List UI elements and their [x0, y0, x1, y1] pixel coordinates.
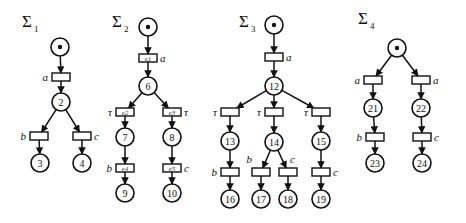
token-icon: [146, 25, 150, 29]
net-sigma4: Σ421222324aabc: [355, 9, 440, 172]
arc: [154, 93, 168, 108]
net-sigma2: Σ2678910e1ae2τe3τe4be5c: [107, 12, 190, 202]
place-18: 18: [279, 190, 297, 208]
transition-box: [73, 132, 91, 140]
place-label: 15: [316, 136, 326, 147]
place-label: 14: [269, 137, 279, 148]
net-sigma3: Σ31213141516171819aτττbbcc: [212, 12, 339, 208]
net-title: Σ: [112, 12, 122, 31]
place-14: 14: [265, 133, 283, 151]
place-label: 24: [417, 158, 427, 169]
transition-t3_c2: c: [312, 166, 338, 178]
event-label: e2: [122, 109, 129, 117]
transition-label: a: [160, 52, 166, 64]
place-9: 9: [116, 184, 134, 202]
transition-t3_b2: b: [247, 153, 271, 176]
place-12: 12: [265, 77, 283, 95]
place-15: 15: [312, 132, 330, 150]
place-label: 13: [225, 136, 235, 147]
arc: [278, 150, 286, 168]
transition-box: [265, 53, 283, 61]
place-2: 2: [52, 93, 70, 111]
transition-label: b: [247, 153, 253, 165]
net-title-subscript: 4: [370, 21, 375, 31]
place-21: 21: [364, 99, 382, 117]
transition-e2: e2τ: [108, 106, 134, 118]
net-title-subscript: 2: [124, 24, 129, 34]
place-6: 6: [139, 77, 157, 95]
place-22: 22: [412, 99, 430, 117]
place-label: 10: [167, 188, 177, 199]
transition-e3: e3τ: [163, 106, 189, 118]
net-title: Σ: [239, 12, 249, 31]
arc: [402, 55, 418, 76]
transition-t4_a1: a: [355, 74, 383, 86]
arc: [376, 55, 392, 76]
place-label: 3: [38, 158, 43, 169]
transition-label: c: [434, 131, 439, 143]
transition-box: [312, 168, 330, 176]
transition-box: [252, 168, 270, 176]
place-3: 3: [31, 154, 49, 172]
place-label: 18: [283, 194, 293, 205]
transition-box: [52, 73, 70, 81]
arc: [374, 117, 375, 133]
place-8: 8: [163, 128, 181, 146]
place-label: 16: [225, 194, 235, 205]
transition-box: [221, 108, 239, 116]
event-label: e5: [169, 165, 176, 173]
event-label: e4: [122, 165, 129, 173]
place-label: 9: [123, 188, 128, 199]
transition-box: [279, 168, 297, 176]
transition-e4: e4b: [107, 162, 135, 174]
place-10: 10: [163, 184, 181, 202]
transition-box: [413, 133, 431, 141]
token-icon: [272, 23, 276, 27]
place-17: 17: [252, 190, 270, 208]
net-title: Σ: [358, 9, 368, 28]
arc: [60, 56, 61, 73]
place-label: 6: [146, 81, 151, 92]
place-13: 13: [221, 132, 239, 150]
transition-t4_a2: a: [412, 74, 439, 86]
transition-label: τ: [257, 106, 262, 118]
place-initial: [139, 18, 157, 36]
place-23: 23: [366, 154, 384, 172]
token-icon: [58, 45, 62, 49]
transition-label: τ: [108, 106, 113, 118]
net-sigma1: Σ1234abc: [21, 12, 100, 172]
place-label: 23: [370, 158, 380, 169]
place-7: 7: [116, 128, 134, 146]
transition-t3_c1: c: [279, 153, 297, 176]
arc: [39, 140, 40, 154]
arc: [237, 91, 266, 108]
transition-label: b: [107, 162, 113, 174]
arc: [66, 110, 80, 132]
event-label: e1: [145, 55, 152, 63]
place-initial: [51, 38, 69, 56]
transition-box: [364, 76, 382, 84]
transition-t4_b: b: [357, 131, 385, 143]
transition-box: [221, 168, 239, 176]
petri-net-diagram: Σ1234abcΣ2678910e1ae2τe3τe4be5cΣ31213141…: [0, 0, 466, 223]
transition-t3_a: a: [265, 51, 292, 63]
transition-label: c: [184, 162, 189, 174]
transition-label: τ: [213, 106, 218, 118]
place-label: 22: [416, 103, 426, 114]
net-title-subscript: 1: [34, 24, 39, 34]
transition-label: c: [333, 166, 338, 178]
arc: [263, 150, 271, 168]
nets-layer: Σ1234abcΣ2678910e1ae2τe3τe4be5cΣ31213141…: [21, 9, 440, 208]
transition-label: c: [290, 153, 295, 165]
place-label: 12: [269, 81, 279, 92]
arc: [42, 110, 57, 132]
token-icon: [395, 46, 399, 50]
transition-t_b: b: [21, 130, 49, 142]
place-label: 2: [59, 97, 64, 108]
transition-t_c: c: [73, 130, 99, 142]
transition-e5: e5c: [163, 162, 189, 174]
transition-box: [366, 133, 384, 141]
place-24: 24: [413, 154, 431, 172]
place-16: 16: [221, 190, 239, 208]
transition-box: [265, 108, 283, 116]
